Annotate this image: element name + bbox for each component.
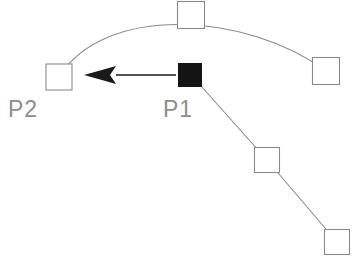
- arrow-head-icon: [84, 66, 116, 84]
- control-point-line-end[interactable]: [325, 230, 350, 255]
- diagram-canvas[interactable]: P2 P1: [0, 0, 353, 262]
- vector-drawing-surface[interactable]: P2 P1: [0, 0, 353, 262]
- control-point-curve-right[interactable]: [313, 58, 340, 85]
- move-vector-arrow[interactable]: [84, 66, 176, 84]
- handle-layer[interactable]: [46, 2, 350, 255]
- control-point-p2[interactable]: [46, 64, 72, 90]
- control-point-line-mid[interactable]: [255, 148, 280, 173]
- control-point-p1[interactable]: [179, 64, 202, 87]
- point-label-p2: P2: [8, 96, 38, 122]
- point-label-p1: P1: [163, 96, 193, 122]
- control-point-curve-top[interactable]: [178, 2, 205, 29]
